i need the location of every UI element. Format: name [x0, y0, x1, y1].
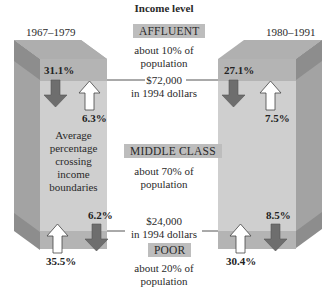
caption-line4: boundaries: [40, 181, 107, 194]
affluent-share: about 10% of population: [113, 44, 215, 70]
middle-class-label: MIDDLE CLASS: [124, 144, 222, 158]
upper-threshold-note: in 1994 dollars: [113, 87, 215, 100]
affluent-share-line2: population: [113, 57, 215, 70]
left-middle-up-pct: 6.3%: [82, 112, 107, 124]
middle-share-line1: about 70% of: [113, 165, 215, 178]
right-middle-down-pct: 8.5%: [266, 209, 291, 221]
affluent-share-line1: about 10% of: [113, 44, 215, 57]
upper-threshold: $72,000 in 1994 dollars: [113, 74, 215, 100]
left-middle-down-pct: 6.2%: [88, 209, 113, 221]
period-label-right: 1980–1991: [266, 26, 316, 38]
poor-share: about 20% of population: [113, 262, 215, 288]
caption-line2: percentage: [40, 142, 107, 155]
lower-threshold-amount: $24,000: [113, 215, 215, 228]
middle-class-share: about 70% of population: [113, 165, 215, 191]
middle-share-line2: population: [113, 178, 215, 191]
poor-label: POOR: [148, 243, 191, 257]
center-caption: Average percentage crossing income bound…: [40, 129, 107, 194]
caption-line3: crossing income: [40, 155, 107, 181]
diagram-title: Income level: [0, 2, 328, 14]
poor-share-line1: about 20% of: [113, 262, 215, 275]
lower-threshold: $24,000 in 1994 dollars: [113, 215, 215, 241]
left-affluent-down-pct: 31.1%: [44, 64, 74, 76]
lower-threshold-note: in 1994 dollars: [113, 228, 215, 241]
poor-share-line2: population: [113, 275, 215, 288]
period-label-left: 1967–1979: [26, 26, 76, 38]
right-poor-up-pct: 30.4%: [226, 255, 256, 267]
upper-threshold-amount: $72,000: [113, 74, 215, 87]
left-poor-up-pct: 35.5%: [46, 255, 76, 267]
caption-line1: Average: [40, 129, 107, 142]
right-affluent-down-pct: 27.1%: [224, 64, 254, 76]
affluent-label: AFFLUENT: [133, 24, 205, 38]
right-middle-up-pct: 7.5%: [265, 112, 290, 124]
